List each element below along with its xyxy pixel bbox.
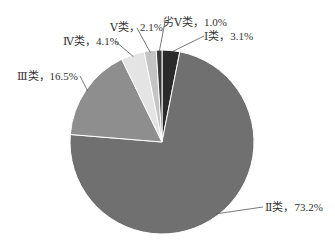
label-class-2: Ⅱ类，73.2% (265, 201, 323, 213)
label-class-6: 劣Ⅴ类，1.0% (163, 16, 227, 28)
label-class-3: Ⅲ类，16.5% (17, 70, 78, 82)
label-class-5: Ⅴ类，2.1% (110, 21, 163, 33)
label-class-4: Ⅳ类，4.1% (63, 35, 119, 47)
label-class-1: Ⅰ类，3.1% (204, 30, 253, 42)
leader-line (80, 76, 88, 91)
leader-line (171, 36, 204, 52)
